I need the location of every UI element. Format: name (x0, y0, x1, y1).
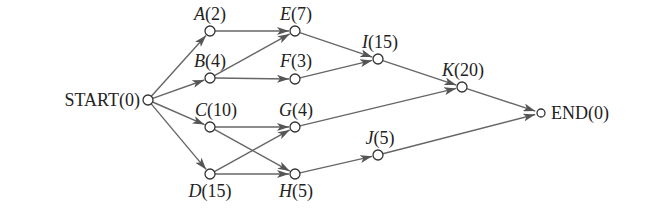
node-label-i: I(15) (361, 32, 398, 53)
node-label-end: END(0) (551, 103, 609, 124)
node-label-g: G(4) (279, 100, 313, 121)
node-label-c: C(10) (195, 100, 237, 121)
node-g (290, 122, 300, 132)
node-label-b: B(4) (194, 51, 226, 72)
edge-j-to-end (383, 114, 535, 153)
node-b (205, 73, 215, 83)
node-end (537, 109, 545, 117)
node-d (205, 169, 215, 179)
node-k (457, 82, 467, 92)
node-label-k: K(20) (441, 60, 484, 81)
node-start (143, 95, 153, 105)
network-diagram: START(0)A(2)B(4)C(10)D(15)E(7)F(3)G(4)H(… (0, 0, 654, 220)
network-diagram-svg: START(0)A(2)B(4)C(10)D(15)E(7)F(3)G(4)H(… (0, 0, 654, 220)
edge-h-to-j (300, 156, 372, 173)
edge-b-to-f (215, 78, 289, 79)
node-label-a: A(2) (193, 4, 226, 25)
node-label-h: H(5) (278, 181, 313, 202)
node-label-e: E(7) (279, 4, 312, 25)
edge-start-to-b (153, 80, 205, 98)
node-a (205, 26, 215, 36)
node-e (290, 26, 300, 36)
node-label-j: J(5) (366, 128, 395, 149)
node-j (373, 150, 383, 160)
node-label-d: D(15) (188, 181, 232, 202)
node-label-f: F(3) (279, 51, 312, 72)
node-c (205, 122, 215, 132)
edge-k-to-end (467, 89, 536, 112)
edge-g-to-k (300, 88, 456, 125)
node-f (290, 74, 300, 84)
node-label-start: START(0) (65, 90, 140, 111)
node-i (373, 54, 383, 64)
node-h (290, 169, 300, 179)
